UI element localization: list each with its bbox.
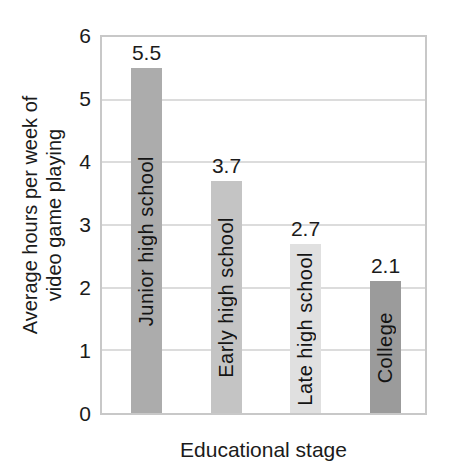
y-tick-label-1: 1	[0, 339, 91, 363]
x-axis-title: Educational stage	[100, 438, 427, 462]
bar-category-label: Late high school	[294, 252, 317, 406]
bar-category-label: Junior high school	[135, 156, 158, 326]
plot-area: 5.5Junior high school3.7Early high schoo…	[100, 35, 427, 415]
y-tick-label-3: 3	[0, 213, 91, 237]
bar-late-high-school: 2.7Late high school	[290, 244, 321, 413]
bar-value-label: 5.5	[132, 41, 161, 65]
bar-category-label-wrap: College	[370, 281, 401, 413]
bars: 5.5Junior high school3.7Early high schoo…	[102, 37, 425, 413]
bar-value-label: 3.7	[212, 154, 241, 178]
bar-category-label-wrap: Junior high school	[131, 68, 162, 413]
y-tick-label-6: 6	[0, 24, 91, 48]
bar-category-label-wrap: Early high school	[211, 181, 242, 413]
y-tick-label-4: 4	[0, 150, 91, 174]
bar-category-label-wrap: Late high school	[290, 244, 321, 413]
bar-category-label: Early high school	[215, 217, 238, 378]
y-tick-label-2: 2	[0, 276, 91, 300]
bar-value-label: 2.7	[291, 217, 320, 241]
bar-chart-figure: Average hours per week of video game pla…	[0, 0, 460, 469]
y-tick-label-5: 5	[0, 87, 91, 111]
y-tick-label-0: 0	[0, 402, 91, 426]
bar-college: 2.1College	[370, 281, 401, 413]
bar-value-label: 2.1	[371, 254, 400, 278]
bar-early-high-school: 3.7Early high school	[211, 181, 242, 413]
bar-junior-high-school: 5.5Junior high school	[131, 68, 162, 413]
bar-category-label: College	[374, 312, 397, 383]
